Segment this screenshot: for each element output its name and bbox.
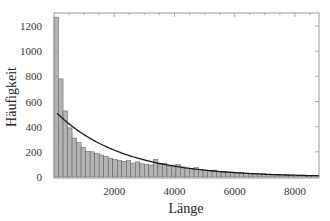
y-tick-label: 400 <box>26 121 43 133</box>
histogram-bar <box>90 152 95 177</box>
histogram-bar <box>95 154 100 177</box>
y-axis-title: Häufigkeit <box>4 67 19 127</box>
histogram-bar <box>59 79 64 177</box>
histogram-bar <box>140 164 145 177</box>
histogram-bar <box>167 166 172 177</box>
x-tick-label: 8000 <box>284 185 307 197</box>
histogram-bar <box>81 147 86 177</box>
y-tick-label: 200 <box>26 146 43 158</box>
histogram-bar <box>135 162 140 177</box>
histogram-bar <box>117 161 122 177</box>
y-tick-label: 800 <box>26 70 43 82</box>
histogram-bar <box>199 169 204 177</box>
histogram-bar <box>144 164 149 177</box>
histogram-bar <box>108 158 113 177</box>
histogram-bar <box>126 161 131 177</box>
histogram-bar <box>86 151 91 177</box>
histogram-bar <box>203 170 208 177</box>
x-axis-title: Länge <box>169 201 204 216</box>
histogram-bar <box>54 17 59 177</box>
y-tick-label: 600 <box>26 96 43 108</box>
histogram-bar <box>180 167 185 177</box>
histogram-chart: 2000400060008000 020040060080010001200 L… <box>0 0 330 221</box>
y-tick-label: 1000 <box>20 45 43 57</box>
histogram-bars <box>54 17 319 177</box>
histogram-bar <box>131 163 136 177</box>
histogram-bar <box>113 159 118 177</box>
histogram-bar <box>99 155 104 177</box>
histogram-bar <box>158 164 163 177</box>
histogram-bar <box>149 165 154 177</box>
histogram-bar <box>208 171 213 177</box>
y-tick-label: 1200 <box>20 20 43 32</box>
histogram-bar <box>77 142 82 177</box>
histogram-bar <box>104 156 109 177</box>
histogram-bar <box>72 138 77 177</box>
x-tick-label: 2000 <box>103 185 126 197</box>
histogram-bar <box>68 128 73 177</box>
histogram-bar <box>122 161 127 177</box>
x-tick-label: 4000 <box>163 185 186 197</box>
histogram-bar <box>185 168 190 177</box>
x-tick-label: 6000 <box>224 185 247 197</box>
y-tick-label: 0 <box>37 171 43 183</box>
histogram-bar <box>190 169 195 177</box>
